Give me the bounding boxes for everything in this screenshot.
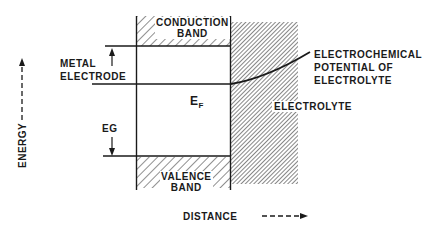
distance-axis-label: DISTANCE — [183, 211, 237, 222]
energy-axis-label: ENERGY — [17, 123, 28, 168]
conduction-band-label: CONDUCTION BAND — [155, 17, 230, 39]
band-gap-label: EG — [102, 123, 117, 134]
valence-band-label: VALENCE BAND — [160, 171, 213, 193]
electrolyte-label: ELECTROLYTE — [272, 101, 354, 112]
metal-electrode-label: METAL ELECTRODE — [60, 57, 126, 83]
fermi-level-label: EF — [190, 96, 204, 111]
electrochemical-potential-label: ELECTROCHEMICAL POTENTIAL OF ELECTROLYTE — [314, 48, 422, 87]
